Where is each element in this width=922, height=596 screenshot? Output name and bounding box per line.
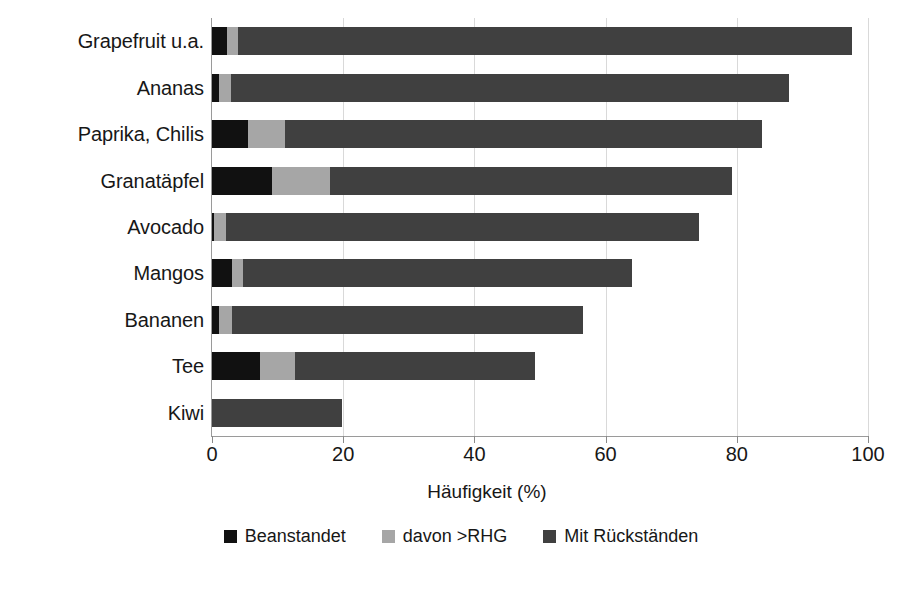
legend-item: Mit Rückständen — [543, 527, 698, 545]
bar-row — [212, 297, 868, 343]
bar-segment-beanstandet — [212, 352, 260, 380]
bar-track — [212, 352, 868, 380]
x-axis-tick-labels: 020406080100 — [212, 444, 868, 472]
bar-row — [212, 204, 868, 250]
bar-track — [212, 259, 868, 287]
bar-track — [212, 306, 868, 334]
bar-segment-beanstandet — [212, 259, 232, 287]
x-tick-mark-20 — [343, 436, 344, 443]
x-tick-mark-0 — [212, 436, 213, 443]
bar-row — [212, 343, 868, 389]
bar-row — [212, 157, 868, 203]
bar-segment-mit-r-ckst-nden — [226, 213, 698, 241]
y-axis-category-labels: Grapefruit u.a.AnanasPaprika, ChilisGran… — [0, 18, 204, 436]
y-axis-label-tee: Tee — [0, 343, 204, 389]
bar-series-container — [212, 18, 868, 436]
gridline-100 — [868, 18, 869, 436]
bar-segment-davon-rhg — [219, 306, 233, 334]
legend-swatch-davon-rhg — [382, 530, 395, 543]
bar-segment-beanstandet — [212, 167, 272, 195]
x-tick-label-60: 60 — [594, 444, 616, 464]
legend-swatch-beanstandet — [224, 530, 237, 543]
legend-swatch-mit-rueckstaenden — [543, 530, 556, 543]
x-tick-label-80: 80 — [726, 444, 748, 464]
bar-segment-mit-r-ckst-nden — [232, 306, 582, 334]
bar-track — [212, 399, 868, 427]
bar-segment-davon-rhg — [260, 352, 295, 380]
bar-segment-davon-rhg — [214, 213, 226, 241]
legend-label: Mit Rückständen — [564, 527, 698, 545]
bar-row — [212, 250, 868, 296]
x-tick-mark-100 — [868, 436, 869, 443]
bar-track — [212, 167, 868, 195]
x-tick-mark-60 — [606, 436, 607, 443]
x-tick-mark-40 — [474, 436, 475, 443]
bar-segment-mit-r-ckst-nden — [231, 74, 789, 102]
legend-label: Beanstandet — [245, 527, 346, 545]
x-axis-title-text: Häufigkeit (%) — [427, 481, 546, 503]
bar-track — [212, 120, 868, 148]
bar-segment-mit-r-ckst-nden — [212, 399, 342, 427]
bar-track — [212, 74, 868, 102]
x-tick-label-0: 0 — [206, 444, 217, 464]
bar-segment-mit-r-ckst-nden — [285, 120, 762, 148]
bar-segment-davon-rhg — [219, 74, 231, 102]
x-tick-mark-80 — [737, 436, 738, 443]
bar-segment-beanstandet — [212, 120, 248, 148]
x-tick-label-40: 40 — [463, 444, 485, 464]
y-axis-label-mangos: Mangos — [0, 250, 204, 296]
bar-row — [212, 18, 868, 64]
bar-segment-davon-rhg — [232, 259, 242, 287]
x-tick-label-20: 20 — [332, 444, 354, 464]
bar-segment-mit-r-ckst-nden — [243, 259, 632, 287]
legend-item: Beanstandet — [224, 527, 346, 545]
plot-area — [212, 18, 868, 436]
x-axis-title: Häufigkeit (%) — [0, 481, 922, 503]
bar-segment-davon-rhg — [248, 120, 285, 148]
legend-item: davon >RHG — [382, 527, 508, 545]
bar-segment-mit-r-ckst-nden — [295, 352, 534, 380]
bar-segment-davon-rhg — [272, 167, 330, 195]
bar-track — [212, 27, 868, 55]
bar-chart: Grapefruit u.a.AnanasPaprika, ChilisGran… — [0, 0, 922, 596]
bar-segment-mit-r-ckst-nden — [238, 27, 851, 55]
y-axis-label-granat-pfel: Granatäpfel — [0, 157, 204, 203]
y-axis-label-ananas: Ananas — [0, 64, 204, 110]
x-tick-label-100: 100 — [851, 444, 884, 464]
legend-label: davon >RHG — [403, 527, 508, 545]
bar-row — [212, 111, 868, 157]
y-axis-label-bananen: Bananen — [0, 297, 204, 343]
bar-segment-mit-r-ckst-nden — [330, 167, 732, 195]
y-axis-label-grapefruit-u-a: Grapefruit u.a. — [0, 18, 204, 64]
y-axis-label-kiwi: Kiwi — [0, 390, 204, 436]
bar-row — [212, 64, 868, 110]
y-axis-label-avocado: Avocado — [0, 204, 204, 250]
y-axis-label-paprika-chilis: Paprika, Chilis — [0, 111, 204, 157]
bar-row — [212, 390, 868, 436]
bar-segment-davon-rhg — [227, 27, 238, 55]
bar-segment-beanstandet — [212, 27, 227, 55]
chart-legend: Beanstandetdavon >RHGMit Rückständen — [0, 527, 922, 545]
x-axis-line — [211, 436, 868, 437]
bar-track — [212, 213, 868, 241]
